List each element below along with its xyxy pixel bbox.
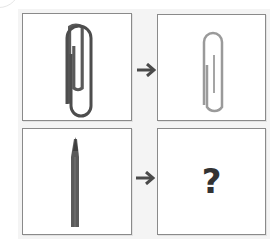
- cell-row1-source: [22, 13, 132, 121]
- right-arrow-icon: [136, 63, 156, 77]
- cell-row1-target: [157, 14, 266, 121]
- question-mark: ?: [158, 161, 265, 201]
- right-arrow-icon: [135, 171, 155, 185]
- cell-row2-source: [22, 128, 132, 235]
- decorative-arc: [0, 0, 20, 8]
- paperclip-large-icon: [23, 14, 131, 120]
- cell-row2-target: ?: [157, 128, 266, 235]
- paperclip-small-icon: [158, 15, 265, 120]
- pencil-icon: [23, 129, 131, 234]
